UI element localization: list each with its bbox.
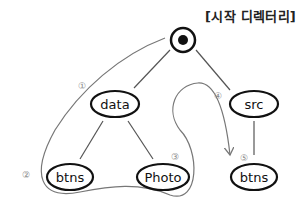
node-btns-right-label: btns bbox=[240, 170, 269, 185]
step-5-marker: ⑤ bbox=[240, 153, 248, 163]
root-node[interactable] bbox=[171, 28, 195, 52]
node-btns-right[interactable]: btns bbox=[231, 164, 277, 190]
node-src-label: src bbox=[245, 97, 264, 112]
root-dot-icon bbox=[178, 35, 188, 45]
directory-tree-diagram: data src btns Photo btns ① ② ③ ④ ⑤ bbox=[0, 0, 302, 220]
node-src[interactable]: src bbox=[230, 91, 278, 117]
node-photo[interactable]: Photo bbox=[137, 164, 189, 190]
node-btns-left[interactable]: btns bbox=[47, 164, 93, 190]
node-btns-left-label: btns bbox=[56, 170, 85, 185]
node-data-label: data bbox=[100, 97, 129, 112]
node-data[interactable]: data bbox=[91, 91, 139, 117]
step-4-marker: ④ bbox=[214, 91, 222, 101]
node-photo-label: Photo bbox=[144, 170, 181, 185]
step-3-marker: ③ bbox=[171, 152, 179, 162]
step-1-marker: ① bbox=[78, 81, 86, 91]
step-2-marker: ② bbox=[22, 170, 30, 180]
